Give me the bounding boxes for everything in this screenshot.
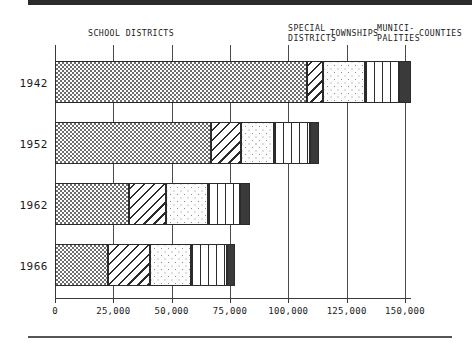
year-label-1952: 1952 — [4, 138, 48, 151]
plot-area: 025,00050,00075,000100,000125,000150,000 — [55, 45, 405, 298]
bar-segment-1966-school-districts — [55, 244, 108, 286]
bar-segment-1962-special-districts — [129, 183, 166, 225]
bar-segment-1942-school-districts — [55, 61, 307, 103]
header-counties: COUNTIES — [419, 28, 462, 38]
x-tick-100000 — [288, 298, 289, 303]
header-municipalities: MUNICI- PALITIES — [377, 23, 420, 43]
bar-segment-1966-municipalities — [191, 244, 227, 286]
bar-1942 — [55, 61, 406, 103]
x-tick-label-0: 0 — [52, 306, 58, 316]
x-tick-label-25000: 25,000 — [96, 306, 130, 316]
bar-segment-1952-counties — [310, 122, 319, 164]
year-label-1962: 1962 — [4, 199, 48, 212]
bar-segment-1942-municipalities — [365, 61, 399, 103]
year-label-1966: 1966 — [4, 260, 48, 273]
bar-segment-1942-townships — [323, 61, 365, 103]
bar-segment-1952-municipalities — [274, 122, 310, 164]
bar-segment-1962-municipalities — [208, 183, 240, 225]
bar-segment-1966-townships — [150, 244, 191, 286]
x-tick-0 — [55, 298, 56, 303]
x-tick-label-75000: 75,000 — [213, 306, 247, 316]
bar-segment-1966-counties — [227, 244, 235, 286]
x-tick-label-100000: 100,000 — [268, 306, 308, 316]
bar-1952 — [55, 122, 322, 164]
bar-1962 — [55, 183, 247, 225]
bar-segment-1952-townships — [241, 122, 274, 164]
x-tick-25000 — [113, 298, 114, 303]
bar-1966 — [55, 244, 235, 286]
x-tick-125000 — [347, 298, 348, 303]
year-label-1942: 1942 — [4, 77, 48, 90]
x-tick-75000 — [230, 298, 231, 303]
top-divider-rule — [28, 0, 472, 5]
x-tick-label-150000: 150,000 — [385, 306, 425, 316]
x-tick-50000 — [172, 298, 173, 303]
bar-segment-1942-special-districts — [307, 61, 323, 103]
bar-segment-1962-townships — [166, 183, 208, 225]
stacked-bar-chart: SCHOOL DISTRICTS SPECIAL DISTRICTS TOWNS… — [0, 0, 472, 349]
header-townships: TOWNSHIPS — [330, 28, 378, 38]
bar-segment-1966-special-districts — [108, 244, 150, 286]
bar-segment-1952-school-districts — [55, 122, 211, 164]
bar-segment-1952-special-districts — [211, 122, 241, 164]
bottom-divider-rule — [28, 336, 452, 338]
bar-segment-1962-counties — [240, 183, 250, 225]
x-axis-line — [55, 298, 411, 299]
x-tick-label-125000: 125,000 — [327, 306, 367, 316]
header-school-districts: SCHOOL DISTRICTS — [88, 28, 174, 38]
x-tick-150000 — [405, 298, 406, 303]
x-tick-label-50000: 50,000 — [155, 306, 189, 316]
bar-segment-1962-school-districts — [55, 183, 129, 225]
bar-segment-1942-counties — [399, 61, 411, 103]
